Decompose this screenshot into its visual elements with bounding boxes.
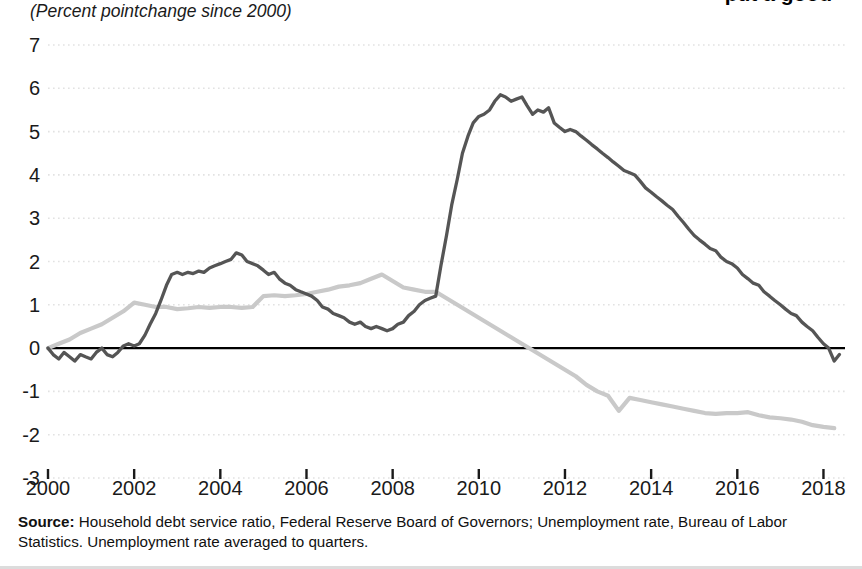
- source-label: Source:: [18, 513, 75, 530]
- y-tick-label: 6: [6, 77, 40, 100]
- y-tick-label: 2: [6, 250, 40, 273]
- y-tick-label: 1: [6, 293, 40, 316]
- line-chart-svg: [0, 0, 862, 500]
- x-tick-label: 2006: [284, 477, 329, 500]
- x-tick-label: 2014: [629, 477, 674, 500]
- x-tick-label: 2010: [457, 477, 502, 500]
- x-tick-label: 2000: [26, 477, 71, 500]
- chart-figure: put a good (Percent pointchange since 20…: [0, 0, 862, 569]
- plot-area: [0, 0, 862, 500]
- y-tick-label: -2: [6, 423, 40, 446]
- x-tick-label: 2008: [370, 477, 415, 500]
- x-tick-label: 2004: [198, 477, 243, 500]
- x-tick-label: 2018: [801, 477, 846, 500]
- y-tick-label: 5: [6, 120, 40, 143]
- series-line-household-debt-service-ratio: [48, 274, 834, 428]
- y-tick-label: 4: [6, 163, 40, 186]
- x-tick-label: 2016: [715, 477, 760, 500]
- y-tick-label: -1: [6, 380, 40, 403]
- source-text: Household debt service ratio, Federal Re…: [18, 513, 787, 550]
- series-line-unemployment-rate: [48, 95, 839, 361]
- y-tick-label: 0: [6, 337, 40, 360]
- x-tick-label: 2012: [543, 477, 588, 500]
- x-tick-label: 2002: [112, 477, 157, 500]
- x-axis-tick-labels: 2000200220042006200820102012201420162018: [0, 477, 862, 507]
- source-note: Source: Household debt service ratio, Fe…: [18, 512, 848, 552]
- y-axis-tick-labels: 76543210-1-2-3: [0, 0, 40, 500]
- y-tick-label: 3: [6, 207, 40, 230]
- y-tick-label: 7: [6, 34, 40, 57]
